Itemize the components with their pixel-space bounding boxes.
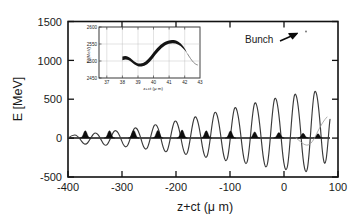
bunch-peak — [201, 131, 212, 138]
inset-x-tick-0: 37 — [104, 80, 110, 85]
bunch-marker-speck — [305, 31, 307, 33]
y-tick-label-3: 1000 — [38, 55, 62, 67]
inset-x-tick-2: 39 — [135, 80, 141, 85]
inset-x-tick-5: 42 — [182, 80, 188, 85]
bunch-peak — [274, 133, 285, 139]
y-tick-label-4: 1500 — [38, 16, 62, 28]
inset-x-tick-3: 40 — [151, 80, 157, 85]
x-tick-label-3: -100 — [219, 181, 241, 193]
inset-y-axis-title: E (MeV) — [86, 46, 91, 63]
x-tick-label-1: -300 — [111, 181, 133, 193]
inset-plot: 37 38 39 40 41 42 43 2450 2500 2550 2600… — [86, 25, 203, 91]
bunch-peak — [298, 133, 309, 138]
inset-x-tick-1: 38 — [120, 80, 126, 85]
inset-y-tick-2: 2550 — [87, 42, 98, 47]
inset-y-tick-0: 2450 — [87, 76, 98, 81]
x-tick-label-5: 100 — [329, 181, 347, 193]
bunch-peak — [225, 131, 236, 138]
x-tick-label-0: -400 — [57, 181, 79, 193]
bunch-peak — [80, 131, 91, 138]
bunch-peak — [177, 130, 188, 138]
inset-x-tick-6: 43 — [197, 80, 203, 85]
figure-root: -500 0 500 1000 1500 -400 -300 -200 -100… — [0, 0, 361, 224]
arrow-right-up-icon — [280, 33, 298, 41]
x-axis-title: z+ct (μ m) — [177, 200, 233, 214]
bunch-peak — [153, 130, 164, 138]
chart-canvas: -500 0 500 1000 1500 -400 -300 -200 -100… — [0, 0, 361, 224]
inset-y-tick-3: 2600 — [87, 25, 98, 30]
data-region — [68, 91, 330, 171]
x-tick-label-4: 0 — [281, 181, 287, 193]
wakefield-curve — [68, 91, 330, 171]
bunch-peak — [128, 130, 139, 138]
bunch-annotation-label: Bunch — [245, 34, 273, 45]
y-axis-title: E [MeV] — [11, 77, 25, 121]
bunch-annotation: Bunch — [245, 31, 307, 45]
inset-x-tick-4: 41 — [167, 80, 173, 85]
inset-x-axis-title: z+ct (μ m) — [143, 86, 163, 91]
y-tick-label-2: 500 — [44, 93, 62, 105]
y-tick-label-1: 0 — [56, 132, 62, 144]
x-tick-label-2: -200 — [165, 181, 187, 193]
